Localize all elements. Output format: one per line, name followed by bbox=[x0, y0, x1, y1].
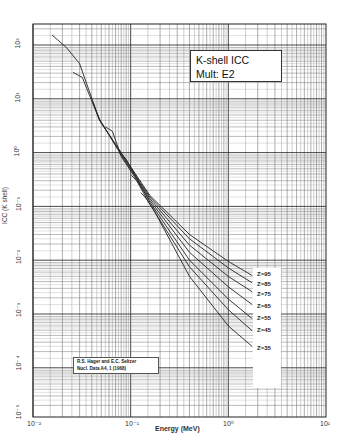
y-axis-title: ICC (K shell) bbox=[1, 187, 8, 224]
x-tick-label: 10⁻¹ bbox=[125, 420, 139, 428]
curve-z-45 bbox=[131, 175, 252, 331]
y-tick-label: 10¹ bbox=[14, 92, 21, 102]
z-label: Z=95 bbox=[257, 271, 271, 277]
chart-subtitle: Mult: E2 bbox=[196, 67, 276, 81]
chart-plot bbox=[0, 0, 348, 440]
y-tick-label: 10⁻² bbox=[15, 250, 23, 264]
y-tick-label: 10⁻⁴ bbox=[15, 356, 23, 371]
z-label: Z=75 bbox=[257, 291, 271, 297]
chart-title: K-shell ICC bbox=[196, 53, 276, 67]
curve-z-55 bbox=[119, 153, 252, 319]
z-label: Z=55 bbox=[257, 315, 271, 321]
z-label: Z=35 bbox=[257, 345, 271, 351]
z-label: Z=65 bbox=[257, 303, 271, 309]
z-label: Z=45 bbox=[257, 327, 271, 333]
chart-title-box: K-shell ICC Mult: E2 bbox=[190, 50, 282, 82]
y-tick-label: 10² bbox=[14, 38, 21, 48]
y-tick-label: 10⁻³ bbox=[15, 303, 23, 317]
x-tick-label: 10⁻² bbox=[27, 420, 41, 428]
citation-line: Nucl. Data A4, 1 (1968) bbox=[77, 366, 155, 373]
z-label: Z=85 bbox=[257, 281, 271, 287]
x-tick-label: 10⁰ bbox=[223, 420, 234, 428]
y-tick-label: 10⁰ bbox=[13, 146, 21, 157]
citation-box: R.S. Hager and E.C. Seltzer Nucl. Data A… bbox=[73, 357, 159, 374]
x-axis-title: Energy (MeV) bbox=[155, 425, 200, 432]
x-tick-label: 10¹ bbox=[320, 420, 330, 427]
y-tick-label: 10⁻¹ bbox=[15, 197, 23, 211]
y-tick-label: 10⁻⁵ bbox=[15, 405, 23, 420]
